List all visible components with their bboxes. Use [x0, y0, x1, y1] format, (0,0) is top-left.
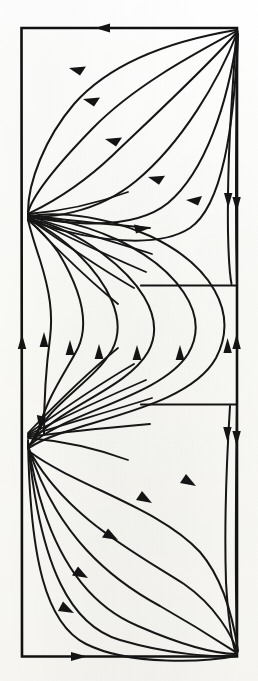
arrow-middle-3: [95, 344, 104, 359]
figure-root: Phase portrait of a planar flow on a rec…: [0, 0, 258, 681]
arrow-lower-arc-3: [102, 528, 118, 540]
arrow-right-inner-upper: [224, 193, 232, 208]
arrow-upper-arc-4: [148, 176, 165, 185]
arrow-bottom-edge: [71, 652, 87, 661]
arrow-upper-arc-1: [69, 67, 86, 76]
arrow-middle-4: [133, 345, 142, 360]
arrow-right-edge-lower: [232, 334, 240, 349]
arrow-left-edge: [18, 334, 26, 349]
domain-boundary: [22, 28, 238, 657]
arrow-right-inner-descend: [223, 427, 231, 442]
arrow-lower-arc-4: [72, 567, 88, 578]
arrow-right-inner-lower: [223, 338, 231, 353]
arrow-upper-arc-2: [83, 98, 100, 107]
arrow-upper-arc-3: [105, 138, 122, 147]
lower-cell-streamlines: [28, 406, 238, 661]
arrow-middle-2: [66, 340, 75, 355]
arrow-upper-arc-5: [186, 196, 202, 206]
arrow-lower-arc-1: [180, 474, 196, 486]
arrow-middle-5: [176, 345, 185, 360]
arrow-top-edge: [95, 24, 110, 33]
arrow-right-edge-upper: [232, 197, 240, 212]
upper-cell-streamlines: [28, 30, 238, 284]
arrow-right-edge-descend: [232, 431, 240, 446]
flow-arrowheads: [18, 24, 241, 661]
arrow-middle-1: [40, 332, 49, 347]
arrow-lower-arc-2: [136, 491, 152, 503]
phase-portrait-diagram: Phase portrait of a planar flow on a rec…: [0, 0, 258, 681]
